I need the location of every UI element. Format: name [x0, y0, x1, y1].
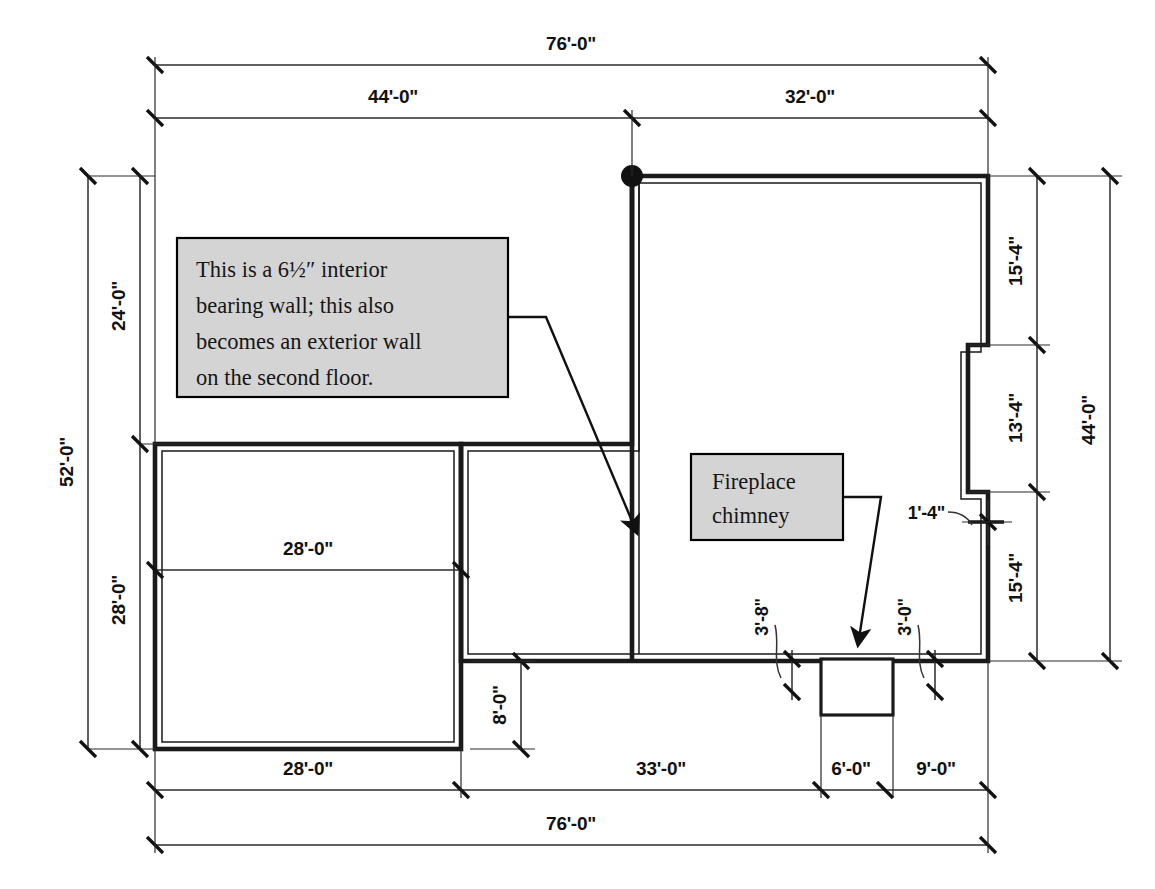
dim-offset-8: 8'-0": [489, 685, 510, 725]
dim-wall-jog: 1'-4": [908, 503, 945, 523]
dim-right-overall: 44'-0": [1078, 395, 1099, 445]
fireplace-line-1: Fireplace: [712, 469, 796, 494]
bearing-wall-line-2: bearing wall; this also: [196, 293, 394, 318]
dim-bottom-33: 33'-0": [636, 758, 686, 779]
fireplace-line-2: chimney: [712, 503, 790, 528]
dim-right-15-4-top: 15'-4": [1005, 236, 1026, 286]
dim-interior-28: 28'-0": [283, 538, 333, 559]
wall-jog-dimension: 1'-4": [908, 500, 1012, 545]
fireplace-leader: [843, 497, 881, 645]
dim-bottom-9: 9'-0": [916, 758, 956, 779]
fireplace-chimney: [821, 659, 893, 715]
dim-top-overall: 76'-0": [546, 33, 596, 54]
dim-bottom-6: 6'-0": [831, 758, 871, 779]
bearing-wall-callout[interactable]: This is a 6½″ interior bearing wall; thi…: [177, 238, 637, 533]
right-dimension-chain: 15'-4" 13'-4" 15'-4" 44'-0": [968, 168, 1122, 669]
left-room-wall-inner-line: [162, 451, 454, 742]
plan-canvas: 76'-0" 44'-0" 32'-0" 52'-0" 24': [0, 0, 1155, 889]
bearing-wall-line-4: on the second floor.: [196, 365, 373, 390]
interior-room-width-dimension: 28'-0": [147, 538, 469, 578]
dim-left-24: 24'-0": [108, 281, 129, 331]
dim-top-32: 32'-0": [785, 86, 835, 107]
dim-left-overall: 52'-0": [56, 437, 77, 487]
bearing-wall-line-1: This is a 6½″ interior: [196, 257, 388, 282]
dim-chimney-right: 3'-0": [895, 598, 915, 635]
dim-right-15-4-bottom: 15'-4": [1005, 553, 1026, 603]
chimney-right-dimension: 3'-0": [895, 598, 943, 700]
dim-chimney-left: 3'-8": [752, 598, 772, 635]
dim-right-13-4: 13'-4": [1005, 393, 1026, 443]
dim-left-28: 28'-0": [108, 575, 129, 625]
interior-offset-dimension: 8'-0": [470, 653, 535, 757]
floor-plan-drawing: 76'-0" 44'-0" 32'-0" 52'-0" 24': [0, 0, 1155, 889]
chimney-left-dimension: 3'-8": [752, 598, 800, 700]
dim-bottom-overall: 76'-0": [546, 813, 596, 834]
exterior-wall-inner-line: [468, 183, 981, 654]
exterior-wall-outline: [461, 176, 988, 661]
dim-bottom-28: 28'-0": [283, 758, 333, 779]
left-room-wall: [155, 444, 461, 749]
fireplace-callout[interactable]: Fireplace chimney: [691, 454, 881, 645]
dim-top-44: 44'-0": [368, 86, 418, 107]
bearing-wall-leader: [508, 317, 637, 533]
bearing-wall-line-3: becomes an exterior wall: [196, 329, 422, 354]
